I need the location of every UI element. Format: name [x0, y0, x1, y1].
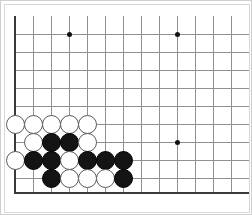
board-bottom-edge	[14, 192, 249, 194]
black-stone[interactable]	[42, 169, 61, 188]
grid-line-vertical	[213, 16, 214, 192]
white-stone[interactable]	[24, 115, 43, 134]
white-stone[interactable]	[6, 151, 25, 170]
black-stone[interactable]	[114, 151, 133, 170]
black-stone[interactable]	[114, 169, 133, 188]
white-stone[interactable]	[60, 115, 79, 134]
screenshot-root	[0, 0, 252, 215]
white-stone[interactable]	[60, 151, 79, 170]
white-stone[interactable]	[42, 115, 61, 134]
white-stone[interactable]	[24, 133, 43, 152]
white-stone[interactable]	[78, 133, 97, 152]
black-stone[interactable]	[42, 151, 61, 170]
black-stone[interactable]	[96, 151, 115, 170]
white-stone[interactable]	[78, 115, 97, 134]
black-stone[interactable]	[78, 151, 97, 170]
black-stone[interactable]	[42, 133, 61, 152]
grid-line-vertical	[141, 16, 142, 192]
white-stone[interactable]	[6, 115, 25, 134]
grid-line-vertical	[177, 16, 178, 192]
white-stone[interactable]	[96, 169, 115, 188]
star-point	[175, 140, 180, 145]
go-board[interactable]	[0, 0, 252, 215]
grid-line-vertical	[195, 16, 196, 192]
star-point	[67, 32, 72, 37]
black-stone[interactable]	[60, 133, 79, 152]
grid-line-vertical	[159, 16, 160, 192]
black-stone[interactable]	[24, 151, 43, 170]
grid-line-vertical	[231, 16, 232, 192]
white-stone[interactable]	[60, 169, 79, 188]
white-stone[interactable]	[78, 169, 97, 188]
star-point	[175, 32, 180, 37]
